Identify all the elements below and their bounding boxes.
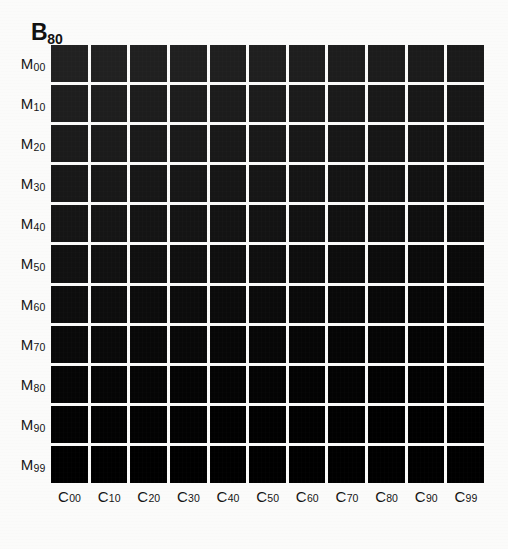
row-label-m00: M00 — [0, 45, 48, 82]
column-label-subscript: 30 — [188, 493, 200, 504]
patch-grid — [51, 45, 484, 483]
patch-m80-c20 — [130, 366, 167, 403]
column-label-c40: C40 — [210, 487, 247, 511]
patch-m99-c40 — [210, 446, 247, 483]
patch-m10-c00 — [51, 85, 88, 122]
row-label-m10: M10 — [0, 85, 48, 122]
patch-m70-c50 — [249, 326, 286, 363]
patch-m10-c20 — [130, 85, 167, 122]
patch-m30-c10 — [91, 165, 128, 202]
patch-m00-c00 — [51, 45, 88, 82]
patch-m20-c60 — [289, 125, 326, 162]
patch-m20-c10 — [91, 125, 128, 162]
patch-m70-c40 — [210, 326, 247, 363]
patch-m60-c90 — [408, 286, 445, 323]
column-label-c99: C99 — [447, 487, 484, 511]
row-label-subscript: 40 — [34, 222, 46, 233]
column-label-subscript: 70 — [347, 493, 359, 504]
row-label-base: M — [21, 56, 34, 71]
row-label-m99: M99 — [0, 446, 48, 483]
column-label-c50: C50 — [249, 487, 286, 511]
patch-m60-c70 — [328, 286, 365, 323]
figure-title-base: B — [31, 19, 47, 45]
patch-m00-c80 — [368, 45, 405, 82]
patch-m80-c99 — [447, 366, 484, 403]
patch-m80-c70 — [328, 366, 365, 403]
patch-m50-c00 — [51, 245, 88, 282]
column-label-subscript: 20 — [148, 493, 160, 504]
patch-m60-c50 — [249, 286, 286, 323]
patch-m99-c00 — [51, 446, 88, 483]
column-label-base: C — [137, 489, 148, 504]
row-label-subscript: 10 — [34, 102, 46, 113]
patch-m10-c80 — [368, 85, 405, 122]
patch-m70-c80 — [368, 326, 405, 363]
patch-m20-c40 — [210, 125, 247, 162]
patch-m40-c50 — [249, 205, 286, 242]
patch-m90-c60 — [289, 406, 326, 443]
patch-m80-c30 — [170, 366, 207, 403]
patch-m20-c50 — [249, 125, 286, 162]
patch-m40-c70 — [328, 205, 365, 242]
column-label-base: C — [177, 489, 188, 504]
patch-m00-c99 — [447, 45, 484, 82]
patch-m80-c90 — [408, 366, 445, 403]
patch-m90-c20 — [130, 406, 167, 443]
patch-m70-c90 — [408, 326, 445, 363]
row-label-base: M — [21, 176, 34, 191]
patch-m30-c70 — [328, 165, 365, 202]
row-label-m70: M70 — [0, 326, 48, 363]
patch-m80-c10 — [91, 366, 128, 403]
patch-m40-c30 — [170, 205, 207, 242]
column-label-c60: C60 — [289, 487, 326, 511]
column-label-subscript: 00 — [69, 493, 81, 504]
row-label-subscript: 00 — [34, 62, 46, 73]
patch-m50-c70 — [328, 245, 365, 282]
patch-m30-c30 — [170, 165, 207, 202]
patch-m00-c90 — [408, 45, 445, 82]
column-label-c20: C20 — [130, 487, 167, 511]
patch-m20-c90 — [408, 125, 445, 162]
patch-m70-c70 — [328, 326, 365, 363]
patch-m99-c80 — [368, 446, 405, 483]
patch-m60-c00 — [51, 286, 88, 323]
patch-m60-c20 — [130, 286, 167, 323]
patch-m99-c20 — [130, 446, 167, 483]
patch-m40-c40 — [210, 205, 247, 242]
patch-m60-c40 — [210, 286, 247, 323]
patch-m70-c20 — [130, 326, 167, 363]
patch-m90-c50 — [249, 406, 286, 443]
row-label-subscript: 30 — [34, 182, 46, 193]
row-label-base: M — [21, 96, 34, 111]
patch-m40-c00 — [51, 205, 88, 242]
patch-m30-c20 — [130, 165, 167, 202]
row-label-base: M — [21, 216, 34, 231]
patch-m70-c10 — [91, 326, 128, 363]
column-label-base: C — [296, 489, 307, 504]
patch-m60-c30 — [170, 286, 207, 323]
patch-m40-c99 — [447, 205, 484, 242]
row-label-m50: M50 — [0, 245, 48, 282]
patch-m80-c60 — [289, 366, 326, 403]
patch-m10-c40 — [210, 85, 247, 122]
patch-m50-c80 — [368, 245, 405, 282]
patch-m20-c70 — [328, 125, 365, 162]
patch-m70-c60 — [289, 326, 326, 363]
column-label-c90: C90 — [408, 487, 445, 511]
patch-m10-c99 — [447, 85, 484, 122]
patch-m20-c20 — [130, 125, 167, 162]
patch-m00-c40 — [210, 45, 247, 82]
column-label-base: C — [336, 489, 347, 504]
patch-m90-c80 — [368, 406, 405, 443]
patch-m30-c50 — [249, 165, 286, 202]
patch-m90-c30 — [170, 406, 207, 443]
row-label-subscript: 60 — [34, 302, 46, 313]
patch-m30-c90 — [408, 165, 445, 202]
patch-m70-c00 — [51, 326, 88, 363]
column-label-subscript: 50 — [267, 493, 279, 504]
patch-m90-c90 — [408, 406, 445, 443]
column-label-subscript: 60 — [307, 493, 319, 504]
patch-m50-c50 — [249, 245, 286, 282]
patch-m50-c20 — [130, 245, 167, 282]
patch-m10-c50 — [249, 85, 286, 122]
